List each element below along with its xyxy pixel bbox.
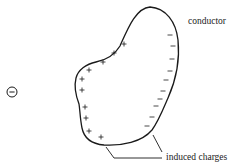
induced-charges-leader-lines: [106, 135, 162, 158]
plus-charge-icon: [80, 88, 85, 93]
plus-charge-icon: [80, 77, 85, 82]
plus-charge-icon: [99, 135, 104, 140]
plus-charge-icon: [87, 68, 92, 73]
conductor-label: conductor: [188, 17, 226, 27]
negative-charge-icon: [7, 87, 17, 97]
induced-charges-label: induced charges: [166, 153, 227, 163]
plus-charge-icon: [87, 129, 92, 134]
induced-negative-charges: [145, 35, 176, 126]
conductor-outline: [75, 7, 178, 145]
induced-positive-charges: [80, 42, 127, 140]
plus-charge-icon: [84, 116, 89, 121]
leader-line: [153, 135, 162, 152]
plus-charge-icon: [83, 105, 88, 110]
leader-line: [106, 147, 162, 158]
induced-charge-diagram: conductor induced charges: [0, 0, 240, 167]
